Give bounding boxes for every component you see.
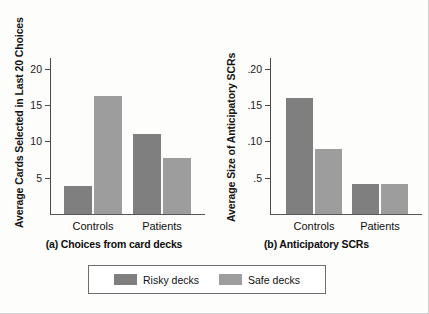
y-tick-mark — [45, 105, 50, 106]
legend-entry-risky-decks: Risky decks — [114, 274, 199, 286]
chart-legend: Risky decks Safe decks — [88, 265, 326, 294]
y-tick-mark — [265, 105, 270, 106]
y-tick-label: 15 — [30, 99, 42, 111]
bar-b-controls-risky-decks — [286, 98, 313, 214]
y-tick-label: .20 — [247, 63, 262, 75]
bar-a-controls-risky-decks — [64, 186, 92, 214]
group-label-controls-panel-a: Controls — [53, 220, 133, 232]
legend-entry-safe-decks: Safe decks — [219, 274, 300, 286]
bar-b-patients-safe-decks — [381, 184, 408, 214]
y-tick-mark — [265, 69, 270, 70]
y-tick-label: 5 — [36, 172, 42, 184]
y-tick-label: .10 — [247, 135, 262, 147]
y-tick-label: 10 — [30, 135, 42, 147]
x-axis-baseline-panel-a — [50, 214, 205, 215]
y-tick-label: 20 — [30, 63, 42, 75]
y-axis-title-panel-b: Average Size of Anticipatory SCRs — [225, 53, 237, 222]
y-tick-label: .5 — [253, 172, 262, 184]
plot-area-panel-a: 5101520 — [50, 58, 205, 215]
y-axis-line-panel-b — [270, 58, 271, 215]
bar-b-patients-risky-decks — [352, 184, 379, 214]
bar-a-controls-safe-decks — [94, 96, 122, 214]
figure-container: Average Cards Selected in Last 20 Choice… — [0, 0, 429, 314]
legend-label-safe-decks: Safe decks — [248, 274, 300, 286]
bar-b-controls-safe-decks — [315, 149, 342, 214]
legend-swatch-risky-icon — [114, 274, 137, 285]
y-tick-mark — [265, 141, 270, 142]
y-axis-line-panel-a — [50, 58, 51, 215]
group-label-patients-panel-a: Patients — [122, 220, 202, 232]
chart-panel-a: Average Cards Selected in Last 20 Choice… — [0, 0, 212, 260]
panel-caption-a: (a) Choices from card decks — [8, 238, 220, 250]
group-label-patients-panel-b: Patients — [340, 220, 420, 232]
x-axis-baseline-panel-b — [270, 214, 422, 215]
legend-swatch-safe-icon — [219, 274, 242, 285]
y-tick-mark — [45, 69, 50, 70]
bar-a-patients-safe-decks — [163, 158, 191, 214]
y-tick-mark — [265, 178, 270, 179]
y-tick-mark — [45, 178, 50, 179]
plot-area-panel-b: .5.10.15.20 — [270, 58, 422, 215]
legend-label-risky-decks: Risky decks — [143, 274, 199, 286]
bar-a-patients-risky-decks — [133, 134, 161, 214]
y-tick-label: .15 — [247, 99, 262, 111]
panel-caption-b: (b) Anticipatory SCRs — [206, 238, 427, 250]
y-axis-title-panel-a: Average Cards Selected in Last 20 Choice… — [13, 17, 25, 228]
chart-panel-b: Average Size of Anticipatory SCRs .5.10.… — [208, 0, 429, 260]
y-tick-mark — [45, 141, 50, 142]
